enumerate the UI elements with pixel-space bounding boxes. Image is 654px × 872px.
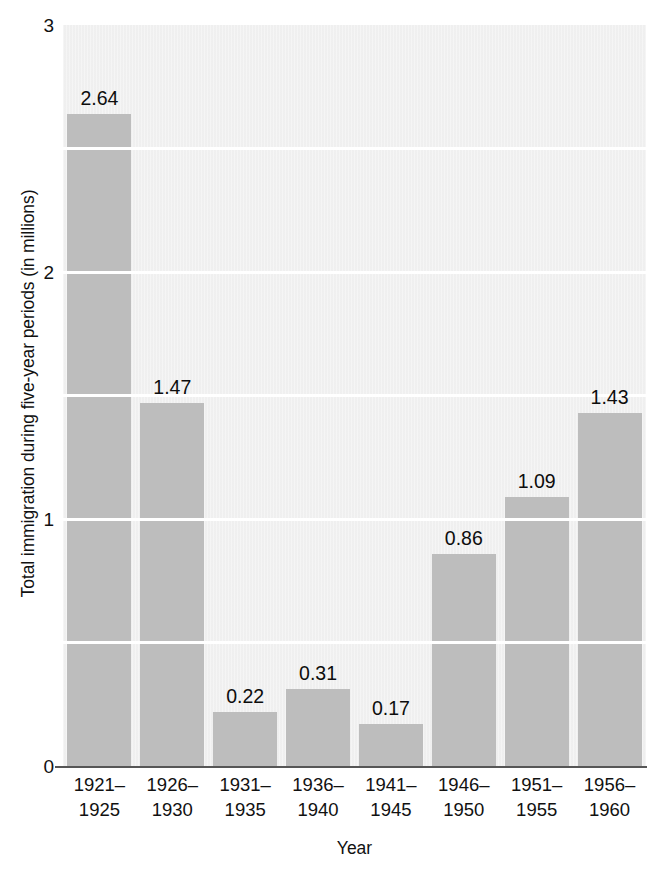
gridline xyxy=(63,271,646,274)
bar xyxy=(359,724,423,766)
x-axis-tick-labels: 1921–19251926–19301931–19351936–19401941… xyxy=(63,772,646,834)
bar xyxy=(286,689,350,766)
bar xyxy=(140,403,204,766)
y-tick-label-0: 0 xyxy=(28,757,54,776)
bar-chart-figure: Total immigration during five-year perio… xyxy=(0,0,654,872)
gridline xyxy=(63,518,646,521)
y-tick-label-2: 2 xyxy=(28,263,54,282)
x-tick-label-line: 1960 xyxy=(565,797,654,822)
x-axis-line xyxy=(55,766,647,768)
bar xyxy=(213,712,277,766)
x-tick-label: 1956–1960 xyxy=(565,772,654,822)
y-axis-tick-labels: 3 2 1 0 xyxy=(27,0,54,872)
bar xyxy=(578,413,642,766)
y-tick-label-3: 3 xyxy=(28,16,54,35)
x-tick-label-line: 1956– xyxy=(565,772,654,797)
plot-area xyxy=(63,25,646,766)
gridline xyxy=(63,641,646,644)
bar xyxy=(432,554,496,766)
gridline xyxy=(63,147,646,150)
gridline xyxy=(63,394,646,397)
x-axis-title: Year xyxy=(63,838,646,859)
bar xyxy=(505,497,569,766)
bar xyxy=(67,114,131,766)
y-tick-label-1: 1 xyxy=(28,510,54,529)
